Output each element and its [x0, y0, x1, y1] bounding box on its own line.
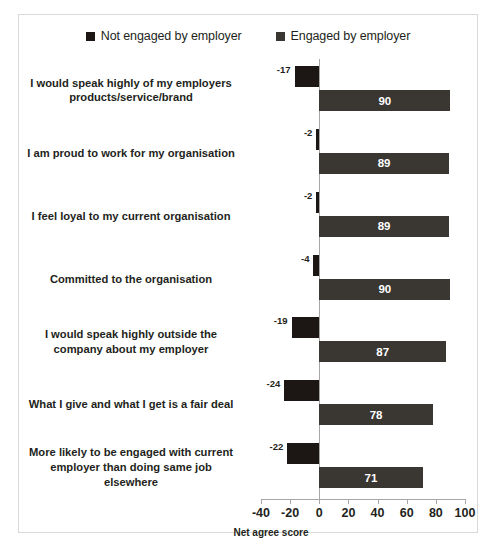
bar-engaged: 89 — [319, 153, 449, 174]
axis-title-text: Net agree score — [233, 527, 308, 538]
bar-value-engaged: 90 — [378, 283, 391, 295]
bar-not-engaged — [313, 255, 319, 276]
axis-tick-label: 0 — [316, 506, 323, 520]
chart-row: I am proud to work for my organisation -… — [19, 122, 479, 185]
bar-engaged: 90 — [319, 90, 450, 111]
bar-not-engaged — [292, 317, 320, 338]
bar-not-engaged — [287, 443, 319, 464]
bar-value-engaged: 78 — [370, 409, 383, 421]
bar-group: -19 87 — [243, 310, 479, 373]
bar-engaged: 89 — [319, 216, 449, 237]
chart-row: I would speak highly outside the company… — [19, 310, 479, 373]
axis-title: Net agree score — [19, 527, 479, 538]
axis-tick-mark — [348, 499, 349, 504]
bar-value-engaged: 89 — [378, 220, 391, 232]
axis-tick-label: 20 — [341, 506, 355, 520]
bar-engaged: 71 — [319, 467, 422, 488]
category-label: I would speak highly of my employers pro… — [19, 59, 243, 122]
bar-group: -24 78 — [243, 373, 479, 436]
bar-group: -2 89 — [243, 185, 479, 248]
square-marker-icon — [86, 32, 95, 41]
axis-tick-mark — [378, 499, 379, 504]
bar-engaged: 87 — [319, 341, 446, 362]
category-label: What I give and what I get is a fair dea… — [19, 373, 243, 436]
chart-row: I feel loyal to my current organisation … — [19, 185, 479, 248]
category-label: More likely to be engaged with current e… — [19, 436, 243, 499]
axis-tick-label: -20 — [281, 506, 299, 520]
square-marker-icon — [276, 32, 285, 41]
bar-not-engaged — [316, 129, 319, 150]
bar-value-not-engaged: -24 — [267, 378, 285, 389]
bar-group: -4 90 — [243, 248, 479, 311]
bar-engaged: 78 — [319, 404, 433, 425]
bar-value-not-engaged: -17 — [277, 64, 295, 75]
bar-not-engaged — [284, 380, 319, 401]
legend-entry-engaged: Engaged by employer — [276, 29, 411, 43]
axis-tick-mark — [290, 499, 291, 504]
bar-group: -17 90 — [243, 59, 479, 122]
axis-tick-label: 60 — [400, 506, 414, 520]
chart-legend: Not engaged by employer Engaged by emplo… — [19, 29, 477, 43]
chart-row: I would speak highly of my employers pro… — [19, 59, 479, 122]
axis-tick-mark — [465, 499, 466, 504]
chart-frame: Not engaged by employer Engaged by emplo… — [18, 14, 478, 533]
bar-value-not-engaged: -2 — [304, 189, 316, 200]
category-label: I am proud to work for my organisation — [19, 122, 243, 185]
legend-label-engaged: Engaged by employer — [291, 29, 411, 43]
axis-tick-mark — [407, 499, 408, 504]
category-label: I would speak highly outside the company… — [19, 310, 243, 373]
bar-value-not-engaged: -2 — [304, 126, 316, 137]
axis-tick-label: -40 — [252, 506, 270, 520]
axis-tick-label: 80 — [429, 506, 443, 520]
axis-tick-label: 100 — [455, 506, 476, 520]
axis-tick-mark — [261, 499, 262, 504]
bar-not-engaged — [295, 66, 320, 87]
plot-area: I would speak highly of my employers pro… — [19, 59, 479, 499]
axis-line — [261, 499, 465, 500]
bar-engaged: 90 — [319, 279, 450, 300]
axis-tick-mark — [436, 499, 437, 504]
bar-value-not-engaged: -4 — [301, 252, 313, 263]
chart-row: Committed to the organisation -4 90 — [19, 248, 479, 311]
bar-not-engaged — [316, 192, 319, 213]
bar-value-engaged: 71 — [365, 472, 378, 484]
legend-entry-not-engaged: Not engaged by employer — [86, 29, 242, 43]
bar-group: -22 71 — [243, 436, 479, 499]
x-axis: -40-20020406080100 Net agree score — [19, 499, 479, 539]
category-label: Committed to the organisation — [19, 248, 243, 311]
chart-row: What I give and what I get is a fair dea… — [19, 373, 479, 436]
chart-row: More likely to be engaged with current e… — [19, 436, 479, 499]
bar-group: -2 89 — [243, 122, 479, 185]
bar-value-engaged: 87 — [376, 346, 389, 358]
bar-value-not-engaged: -19 — [274, 315, 292, 326]
axis-tick-mark — [319, 499, 320, 504]
axis-tick-label: 40 — [371, 506, 385, 520]
category-label: I feel loyal to my current organisation — [19, 185, 243, 248]
legend-label-not-engaged: Not engaged by employer — [101, 29, 242, 43]
bar-value-engaged: 89 — [378, 157, 391, 169]
bar-value-not-engaged: -22 — [269, 441, 287, 452]
bar-value-engaged: 90 — [378, 95, 391, 107]
